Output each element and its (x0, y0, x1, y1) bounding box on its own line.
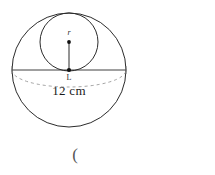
inner-center-point (67, 40, 71, 44)
sphere-diagram-svg: r L 12 cm ( (0, 0, 215, 175)
geometry-figure-canvas: r L 12 cm ( (0, 0, 215, 175)
sphere-center-point (67, 68, 71, 72)
center-point-label: L (67, 73, 72, 82)
trailing-parenthesis-mark: ( (72, 145, 78, 164)
diameter-dimension-label: 12 cm (52, 83, 86, 98)
